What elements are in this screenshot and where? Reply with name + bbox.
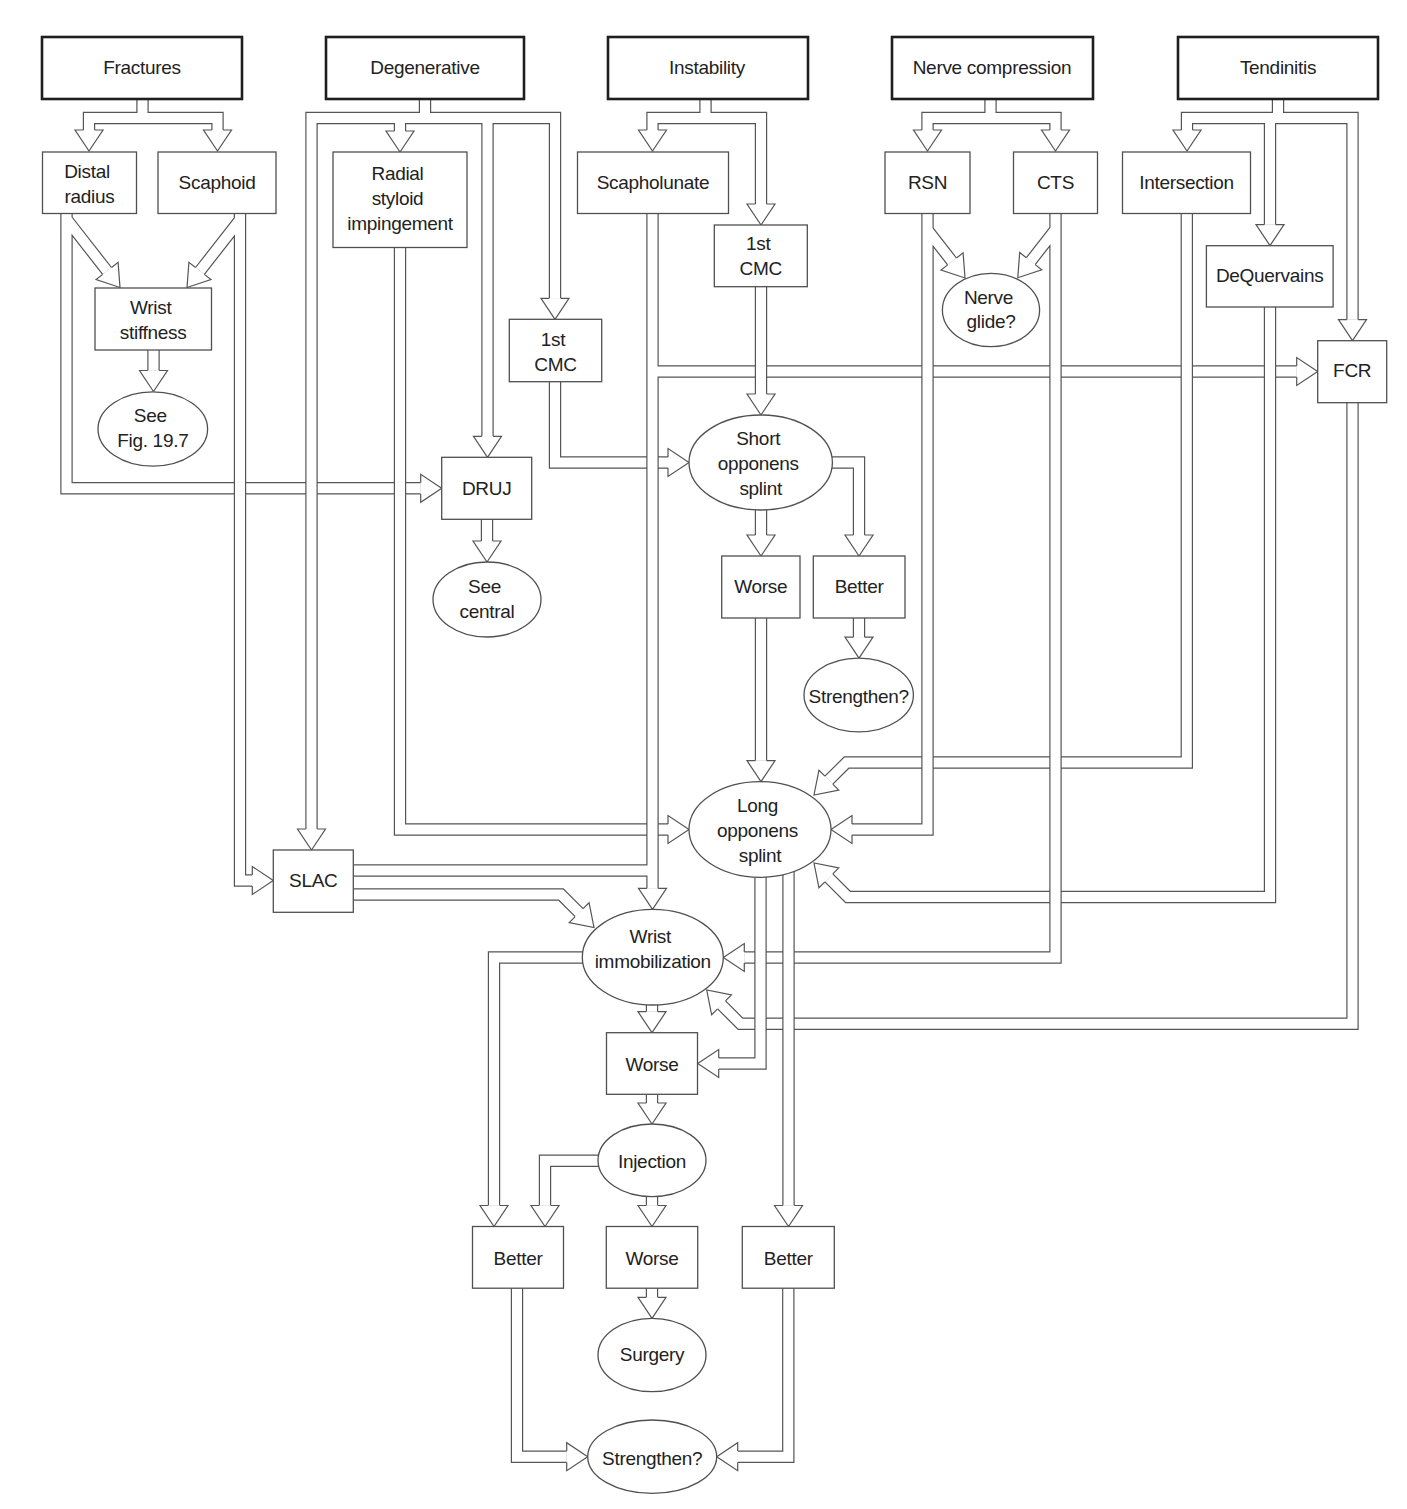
arrow-down-icon <box>914 130 942 151</box>
node-degenerative: Degenerative <box>326 37 524 99</box>
node-label: Worse <box>734 576 787 597</box>
arrow-down-icon <box>747 204 775 225</box>
node-ellipse <box>433 562 541 637</box>
node-see-fig-19-7: See Fig. 19.7 <box>98 392 208 466</box>
node-label: Strengthen? <box>602 1448 702 1469</box>
node-rsn: RSN <box>885 152 970 214</box>
node-label: Tendinitis <box>1240 57 1316 78</box>
node-wrist-stiffness: Wrist stiffness <box>95 288 212 350</box>
connector-slac <box>350 895 579 913</box>
arrow-down-icon <box>480 1206 508 1227</box>
node-scapholunate: Scapholunate <box>578 152 729 214</box>
node-label: Worse <box>625 1248 678 1269</box>
node-nerve-compression: Nerve compression <box>892 37 1093 99</box>
node-worse-after-injection: Worse <box>606 1227 697 1289</box>
node-ellipse <box>942 273 1039 346</box>
connector-long-opponens <box>719 870 789 1206</box>
node-surgery: Surgery <box>598 1318 706 1391</box>
node-label: SLAC <box>289 870 337 891</box>
arrow-down-icon <box>638 1103 666 1124</box>
arrow-right-icon <box>567 1443 588 1471</box>
arrow-down-icon <box>775 1206 803 1227</box>
node-short-opponens-splint: Short opponens splint <box>689 415 832 510</box>
node-better-right: Better <box>742 1227 834 1289</box>
node-strengthen-upper: Strengthen? <box>804 658 913 732</box>
arrow-right-icon <box>252 867 273 895</box>
node-wrist-immobilization: Wrist immobilization <box>582 909 723 1005</box>
connector-fractures <box>89 96 218 130</box>
node-see-central: See central <box>433 562 541 637</box>
node-label: Instability <box>669 57 746 78</box>
arrow-down-icon <box>541 298 569 319</box>
arrow-down-icon <box>1042 130 1070 151</box>
node-cts: CTS <box>1014 152 1098 214</box>
arrow-down-icon <box>386 131 414 152</box>
arrow-down-icon <box>845 535 873 556</box>
node-1st-cmc-degenerative: 1st CMC <box>509 319 601 381</box>
node-worse-after-immobilization: Worse <box>607 1033 698 1095</box>
node-injection: Injection <box>598 1124 706 1197</box>
node-radial-styloid-impingement: Radial styloid impingement <box>333 152 467 248</box>
arrow-down-icon <box>845 637 873 658</box>
node-label: Surgery <box>620 1344 685 1365</box>
flowchart-canvas: Fractures Degenerative Instability Nerve… <box>0 0 1407 1509</box>
node-fcr: FCR <box>1318 341 1387 403</box>
arrow-down-icon <box>75 130 103 151</box>
node-label: Better <box>764 1248 814 1269</box>
node-label: Scapholunate <box>597 172 710 193</box>
node-tendinitis: Tendinitis <box>1178 37 1378 99</box>
arrow-down-icon <box>638 1297 666 1318</box>
node-label: Nerve compression <box>913 57 1072 78</box>
node-label: Scaphoid <box>179 172 256 193</box>
node-fractures: Fractures <box>42 37 242 99</box>
node-label: RSN <box>908 172 947 193</box>
arrow-right-icon <box>668 816 689 844</box>
node-long-opponens-splint: Long opponens splint <box>689 782 831 878</box>
arrow-down-icon <box>474 436 502 457</box>
node-label: Strengthen? <box>809 686 909 707</box>
node-worse-after-short-splint: Worse <box>722 556 800 618</box>
node-better-after-short-splint: Better <box>813 556 905 618</box>
arrow-down-icon <box>638 1012 666 1033</box>
node-label: Better <box>835 576 885 597</box>
connector-long-opponens <box>719 870 789 1206</box>
node-label: Better <box>494 1248 544 1269</box>
arrow-down-icon <box>1173 130 1201 151</box>
arrow-down-icon <box>204 130 232 151</box>
arrow-down-icon <box>639 888 667 909</box>
node-1st-cmc-instability: 1st CMC <box>714 225 807 287</box>
arrow-right-icon <box>668 449 689 477</box>
arrow-down-icon <box>531 1206 559 1227</box>
arrow-down-icon <box>140 371 168 392</box>
node-label: DRUJ <box>462 478 511 499</box>
node-label: FCR <box>1333 360 1371 381</box>
arrow-down-icon <box>747 761 775 782</box>
arrow-left-icon <box>698 1050 719 1078</box>
node-better-left: Better <box>473 1227 564 1289</box>
connector-nerve-compression <box>928 96 1056 130</box>
arrow-down-icon <box>1339 320 1367 341</box>
arrow-down-icon <box>638 1206 666 1227</box>
arrow-left-icon <box>831 816 852 844</box>
connectors <box>67 96 1353 1457</box>
arrow-down-icon <box>298 829 326 850</box>
arrow-down-icon <box>747 394 775 415</box>
node-distal-radius: Distal radius <box>43 152 137 214</box>
node-instability: Instability <box>608 37 808 99</box>
node-intersection: Intersection <box>1123 152 1251 214</box>
node-nerve-glide: Nerve glide? <box>942 273 1039 346</box>
node-label: Degenerative <box>370 57 479 78</box>
connector-rsn <box>852 210 952 830</box>
arrow-down-icon <box>473 541 501 562</box>
node-label: Worse <box>625 1054 678 1075</box>
node-druj: DRUJ <box>442 457 532 519</box>
node-label: Fractures <box>103 57 181 78</box>
connector-rsn <box>852 210 952 830</box>
node-strengthen-lower: Strengthen? <box>588 1420 717 1493</box>
node-dequervains: DeQuervains <box>1206 246 1333 307</box>
arrow-down-icon <box>639 130 667 151</box>
node-label: CTS <box>1037 172 1074 193</box>
node-label: Intersection <box>1139 172 1234 193</box>
arrow-right-icon <box>1297 358 1318 386</box>
node-label: Injection <box>618 1151 686 1172</box>
